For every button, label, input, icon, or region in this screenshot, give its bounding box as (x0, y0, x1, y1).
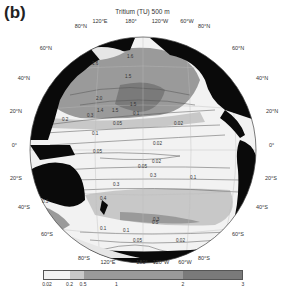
svg-text:0.3: 0.3 (87, 113, 94, 118)
colorbar-tick: 0.2 (66, 281, 73, 287)
svg-text:1.6: 1.6 (92, 61, 99, 66)
lon-label-bottom: 180° (136, 259, 147, 265)
lat-label-left: 60°N (40, 45, 52, 51)
colorbar-tick: 3 (242, 281, 245, 287)
lat-label-right: 20°S (265, 175, 277, 181)
globe-map: 120°E 180° 120°W 60°W 120°E 180° 120°W 6… (0, 0, 285, 291)
lat-label-right: 0° (269, 142, 274, 148)
svg-text:0.02: 0.02 (174, 121, 183, 126)
lat-label-right: 60°S (232, 231, 244, 237)
colorbar-bin-0.2-0.5 (70, 271, 83, 279)
lat-label-left: 80°S (78, 255, 90, 261)
lat-label-left: 0° (12, 142, 17, 148)
colorbar-tick: 2 (182, 281, 185, 287)
lat-label-left: 40°N (18, 75, 30, 81)
lon-label-bottom: 120°E (100, 259, 115, 265)
svg-text:0.05: 0.05 (138, 164, 147, 169)
svg-text:1.4: 1.4 (97, 108, 104, 113)
lon-label-top: 180° (125, 18, 136, 24)
svg-text:0.3: 0.3 (153, 217, 160, 222)
svg-text:0.1: 0.1 (100, 226, 107, 231)
svg-text:1.5: 1.5 (125, 74, 132, 79)
colorbar-bin-0-0.2 (44, 271, 70, 279)
lat-label-right: 40°S (256, 204, 268, 210)
svg-text:0.1: 0.1 (123, 228, 130, 233)
lon-label-top: 120°W (152, 18, 169, 24)
lat-label-left: 80°N (75, 23, 87, 29)
lat-label-right: 80°S (198, 255, 210, 261)
lon-label-bottom: 120°W (153, 259, 170, 265)
colorbar-tick: 0.5 (80, 281, 87, 287)
svg-text:0.1: 0.1 (190, 175, 197, 180)
svg-text:1.5: 1.5 (112, 108, 119, 113)
lat-label-left: 20°N (10, 108, 22, 114)
lat-label-left: 60°S (41, 231, 53, 237)
colorbar-tick: 1 (115, 281, 118, 287)
svg-text:0.3: 0.3 (150, 173, 157, 178)
svg-text:1.6: 1.6 (127, 54, 134, 59)
svg-text:1.5: 1.5 (130, 102, 137, 107)
ocean-field (20, 20, 270, 280)
lat-label-right: 80°N (198, 23, 210, 29)
lat-label-left: 40°S (18, 204, 30, 210)
svg-text:0.3: 0.3 (42, 199, 49, 204)
lon-label-bottom: 60°W (178, 259, 192, 265)
colorbar-bin-2-3 (183, 271, 242, 279)
lon-label-top: 120°E (92, 18, 107, 24)
svg-text:0.05: 0.05 (93, 149, 102, 154)
svg-text:2.0: 2.0 (96, 96, 103, 101)
svg-text:0.2: 0.2 (62, 117, 69, 122)
svg-text:0.02: 0.02 (153, 141, 162, 146)
colorbar-bin-0.5-2 (84, 271, 183, 279)
lat-label-right: 40°N (256, 75, 268, 81)
svg-text:0.4: 0.4 (100, 196, 107, 201)
colorbar-ticks: 0.02 0.2 0.5 1 2 3 (43, 281, 243, 291)
lat-label-left: 20°S (10, 175, 22, 181)
svg-text:0.05: 0.05 (113, 121, 122, 126)
svg-text:0.02: 0.02 (176, 238, 185, 243)
lat-label-right: 20°N (266, 108, 278, 114)
colorbar-tick: 0.02 (42, 281, 52, 287)
lon-label-top: 60°W (180, 18, 194, 24)
svg-text:0.02: 0.02 (152, 159, 161, 164)
colorbar (43, 270, 243, 280)
svg-text:0.1: 0.1 (92, 131, 99, 136)
svg-text:0.1: 0.1 (133, 111, 140, 116)
lat-label-right: 60°N (232, 45, 244, 51)
svg-text:0.05: 0.05 (133, 238, 142, 243)
svg-text:0.3: 0.3 (113, 182, 120, 187)
